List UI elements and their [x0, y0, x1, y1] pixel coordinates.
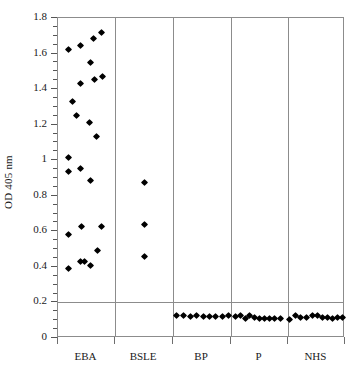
x-axis-tick: [230, 337, 231, 344]
gridline: [58, 302, 343, 303]
x-axis-tick: [344, 337, 345, 344]
y-axis-tick-label: 0.2: [7, 295, 47, 306]
data-point: [65, 231, 72, 238]
group-separator: [173, 18, 174, 336]
x-axis-tick: [172, 337, 173, 344]
x-axis-tick: [114, 337, 115, 344]
data-point: [141, 253, 148, 260]
data-point: [77, 42, 84, 49]
scatter-plot-figure: OD 405 nm 00.20.40.60.811.21.41.61.8 EBA…: [0, 0, 358, 385]
data-point: [93, 133, 100, 140]
data-point: [77, 165, 84, 172]
plot-area: [57, 17, 344, 337]
y-axis-tick-label: 1.8: [7, 11, 47, 22]
data-point: [91, 76, 98, 83]
data-point: [77, 80, 84, 87]
data-point: [86, 119, 93, 126]
x-axis-tick: [287, 337, 288, 344]
data-point: [98, 29, 105, 36]
data-point: [98, 223, 105, 230]
data-point: [87, 262, 94, 269]
data-point: [286, 316, 293, 323]
y-axis-tick-label: 1.4: [7, 82, 47, 93]
y-axis-tick-label: 0.6: [7, 224, 47, 235]
data-point: [64, 265, 71, 272]
data-point: [65, 168, 72, 175]
data-point: [89, 35, 96, 42]
data-point: [69, 98, 76, 105]
x-axis-category-label-nhs: NHS: [280, 350, 350, 362]
y-axis-tick-label: 0.8: [7, 189, 47, 200]
group-separator: [288, 18, 289, 336]
x-axis-tick: [57, 337, 58, 344]
data-point: [87, 177, 94, 184]
data-point: [99, 73, 106, 80]
group-separator: [231, 18, 232, 336]
data-point: [141, 221, 148, 228]
data-point: [339, 314, 346, 321]
group-separator: [115, 18, 116, 336]
y-axis-tick-label: 0.4: [7, 260, 47, 271]
data-point: [277, 315, 284, 322]
y-axis-tick-label: 0: [7, 331, 47, 342]
data-point: [73, 112, 80, 119]
y-axis-tick-label: 1.6: [7, 47, 47, 58]
data-point: [141, 179, 148, 186]
y-axis-tick-label: 1: [7, 153, 47, 164]
data-point: [87, 59, 94, 66]
data-point: [93, 247, 100, 254]
data-point: [78, 223, 85, 230]
y-axis-tick-label: 1.2: [7, 118, 47, 129]
data-point: [64, 46, 71, 53]
data-point: [65, 154, 72, 161]
